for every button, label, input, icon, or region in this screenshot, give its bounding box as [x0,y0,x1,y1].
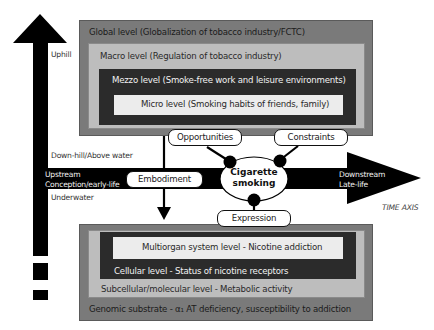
mezzo-level-label: Mezzo level (Smoke-free work and leisure… [112,75,346,85]
genomic-level-label: Genomic substrate - α₁ AT deficiency, su… [89,304,351,314]
subcellular-level-label: Subcellular/molecular level - Metabolic … [101,284,292,294]
upstream-line1: Upstream [45,170,120,180]
vertical-arrow-dash-1 [33,263,48,280]
constraints-dot [274,155,287,168]
constraints-label: Constraints [274,129,348,146]
upstream-label: Upstream Conception/early-life [45,170,120,189]
time-axis-label: TIME AXIS [382,203,418,212]
downhill-label: Down-hill/Above water [51,151,133,160]
uphill-label: Uphill [51,50,71,59]
underwater-label: Underwater [51,193,94,202]
multiorgan-level-box: Multiorgan system level - Nicotine addic… [113,237,343,259]
multiorgan-level-label: Multiorgan system level - Nicotine addic… [142,242,322,252]
embodiment-arrow-head [157,207,171,220]
downstream-line1: Downstream [339,170,385,180]
global-level-label: Global level (Globalization of tobacco i… [89,27,305,37]
cigarette-smoking-text: Cigarette smoking [220,167,288,189]
upstream-line2: Conception/early-life [45,180,120,190]
opportunities-label: Opportunities [168,129,242,146]
embodiment-label: Embodiment [126,171,203,188]
downstream-label: Downstream Late-life [339,170,385,189]
macro-level-label: Macro level (Regulation of tobacco indus… [100,51,281,61]
cigarette-smoking-line1: Cigarette [220,167,288,178]
expression-dot [248,194,261,207]
micro-level-box: Micro level (Smoking habits of friends, … [114,95,343,115]
micro-level-label: Micro level (Smoking habits of friends, … [141,99,329,109]
downstream-line2: Late-life [339,180,385,190]
vertical-arrow-dash-2 [33,290,48,300]
cigarette-smoking-line2: smoking [220,178,288,189]
expression-label: Expression [217,210,291,227]
cellular-level-label: Cellular level - Status of nicotine rece… [114,266,288,276]
